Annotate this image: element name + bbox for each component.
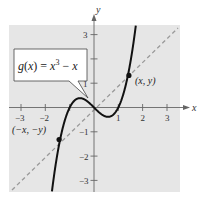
svg-text:2: 2 — [141, 113, 146, 123]
point-neg-x-neg-y — [57, 137, 62, 142]
svg-text:−2: −2 — [40, 113, 50, 123]
svg-text:−1: −1 — [79, 127, 89, 137]
x-axis-arrow-icon — [183, 105, 190, 110]
point-x-y-label: (x, y) — [135, 75, 156, 87]
odd-function-graph: x y −3 −2 1 2 3 3 1 −1 −2 −3 — [0, 0, 200, 204]
equation-label: g(x) = x3 − x — [18, 58, 78, 73]
y-axis-arrow-icon — [92, 14, 97, 21]
svg-text:−2: −2 — [79, 152, 89, 162]
svg-text:1: 1 — [116, 113, 121, 123]
y-axis-label: y — [95, 4, 101, 15]
svg-text:−3: −3 — [79, 176, 89, 186]
svg-text:3: 3 — [165, 113, 170, 123]
point-neg-x-neg-y-label: (−x, −y) — [12, 124, 47, 136]
svg-text:3: 3 — [83, 30, 88, 40]
point-x-y — [126, 73, 131, 78]
svg-text:−3: −3 — [15, 113, 25, 123]
x-axis-label: x — [191, 102, 197, 113]
